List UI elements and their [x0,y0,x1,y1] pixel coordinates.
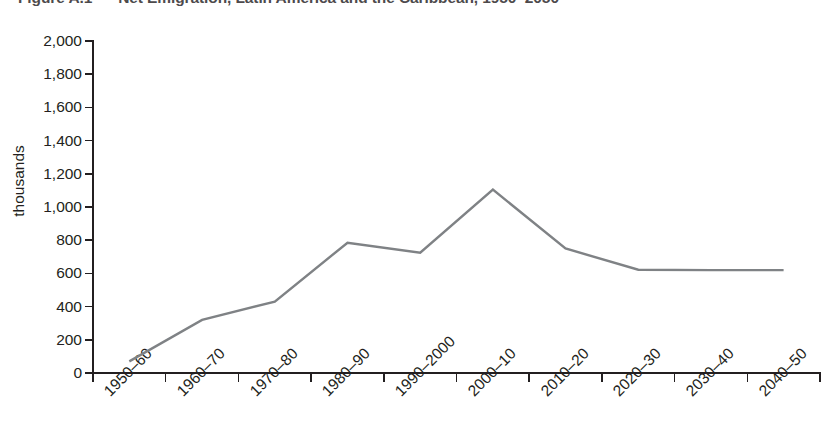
x-axis-tick [238,374,240,382]
x-axis-tick [310,374,312,382]
x-axis-tick [165,374,167,382]
y-axis-tick [85,40,93,42]
y-axis-tick [85,273,93,275]
x-axis-tick [819,374,821,382]
y-axis-tick-label: 1,400 [10,133,82,149]
y-axis-tick-label: 600 [10,265,82,281]
figure-title-text: Net Emigration, Latin America and the Ca… [118,0,559,6]
y-axis-tick-label: 1,000 [10,199,82,215]
y-axis-tick [85,73,93,75]
y-axis-tick [85,339,93,341]
y-axis-tick [85,206,93,208]
y-axis-tick-label: 400 [10,299,82,315]
x-axis-tick [92,374,94,382]
x-axis-tick [383,374,385,382]
figure-container: Figure A.1Net Emigration, Latin America … [0,0,823,447]
y-axis-tick-label: 0 [10,365,82,381]
y-axis-tick-label: 2,000 [10,33,82,49]
y-axis-tick-label: 1,600 [10,99,82,115]
x-axis-tick [747,374,749,382]
y-axis-labels: 02004006008001,0001,2001,4001,6001,8002,… [6,0,82,447]
y-axis-tick-label: 1,200 [10,166,82,182]
y-axis-tick [85,140,93,142]
x-axis-tick [456,374,458,382]
y-axis-tick [85,239,93,241]
y-axis-tick [85,107,93,109]
y-axis-tick-label: 1,800 [10,66,82,82]
y-axis-tick-label: 200 [10,332,82,348]
x-axis-tick [674,374,676,382]
x-axis-tick [528,374,530,382]
y-axis-tick [85,306,93,308]
x-axis-tick [601,374,603,382]
x-axis-tick-label: 1990–2000 [392,333,458,399]
y-axis-tick-label: 800 [10,232,82,248]
figure-title: Figure A.1Net Emigration, Latin America … [18,0,818,11]
net-emigration-line [129,190,783,362]
y-axis-tick [85,372,93,374]
y-axis-tick [85,173,93,175]
